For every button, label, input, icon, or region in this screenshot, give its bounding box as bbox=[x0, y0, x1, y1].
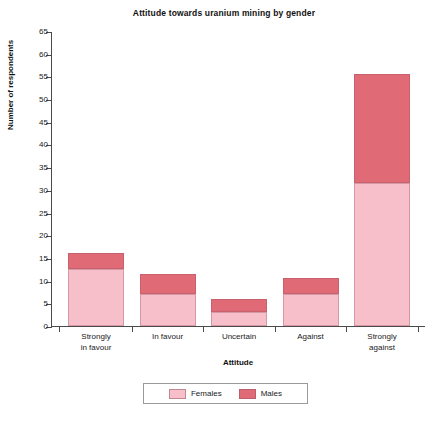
chart-title: Attitude towards uranium mining by gende… bbox=[0, 8, 448, 18]
legend-label: Males bbox=[261, 389, 282, 398]
x-tick-label-line: in favour bbox=[58, 343, 134, 354]
x-tick-label: In favour bbox=[130, 332, 206, 343]
x-tick-label: Uncertain bbox=[201, 332, 277, 343]
bar-stack[interactable] bbox=[140, 274, 196, 326]
x-tick-label: Against bbox=[273, 332, 349, 343]
bar-stack[interactable] bbox=[68, 253, 124, 326]
x-tick-label-line: Against bbox=[273, 332, 349, 343]
bar-segment-females[interactable] bbox=[354, 183, 410, 326]
x-tick-label-line: Uncertain bbox=[201, 332, 277, 343]
y-tick-label: 25 bbox=[39, 208, 48, 219]
x-tick-label-line: Strongly bbox=[58, 332, 134, 343]
y-tick-label: 50 bbox=[39, 94, 48, 105]
bar-stack[interactable] bbox=[283, 278, 339, 326]
bar-segment-males[interactable] bbox=[140, 274, 196, 294]
chart-legend: FemalesMales bbox=[143, 383, 308, 404]
legend-label: Females bbox=[191, 389, 222, 398]
y-tick-label: 40 bbox=[39, 139, 48, 150]
y-tick-label: 30 bbox=[39, 185, 48, 196]
y-tick-label: 20 bbox=[39, 230, 48, 241]
chart-container: Attitude towards uranium mining by gende… bbox=[0, 0, 448, 424]
bar-segment-females[interactable] bbox=[68, 269, 124, 326]
y-tick-label: 10 bbox=[39, 276, 48, 287]
legend-item-males[interactable]: Males bbox=[239, 389, 282, 399]
bar-segment-females[interactable] bbox=[140, 294, 196, 326]
x-tick-label-line: In favour bbox=[130, 332, 206, 343]
bar-segment-females[interactable] bbox=[211, 312, 267, 326]
y-tick-label: 45 bbox=[39, 117, 48, 128]
bar-segment-males[interactable] bbox=[211, 299, 267, 313]
y-tick-label: 5 bbox=[44, 298, 48, 309]
y-tick-label: 55 bbox=[39, 71, 48, 82]
x-axis-title: Attitude bbox=[51, 358, 425, 367]
y-tick-label: 0 bbox=[44, 321, 48, 332]
bar-segment-males[interactable] bbox=[354, 74, 410, 183]
plot-area: 05101520253035404550556065 bbox=[51, 32, 425, 327]
x-tick-label-line: against bbox=[344, 343, 420, 354]
legend-swatch bbox=[169, 389, 186, 399]
bar-stack[interactable] bbox=[354, 74, 410, 326]
y-tick-label: 15 bbox=[39, 253, 48, 264]
y-axis-line bbox=[51, 32, 52, 328]
y-axis-title: Number of respondents bbox=[6, 40, 15, 130]
bar-segment-males[interactable] bbox=[68, 253, 124, 269]
x-tick-label-line: Strongly bbox=[344, 332, 420, 343]
bar-segment-females[interactable] bbox=[283, 294, 339, 326]
x-tick-label: Stronglyin favour bbox=[58, 332, 134, 353]
bar-segment-males[interactable] bbox=[283, 278, 339, 294]
x-axis-line bbox=[51, 326, 425, 327]
y-tick-label: 35 bbox=[39, 162, 48, 173]
legend-swatch bbox=[239, 389, 256, 399]
y-tick-label: 65 bbox=[39, 26, 48, 37]
y-tick-label: 60 bbox=[39, 49, 48, 60]
legend-item-females[interactable]: Females bbox=[169, 389, 222, 399]
x-tick-label: Stronglyagainst bbox=[344, 332, 420, 353]
bar-stack[interactable] bbox=[211, 299, 267, 326]
